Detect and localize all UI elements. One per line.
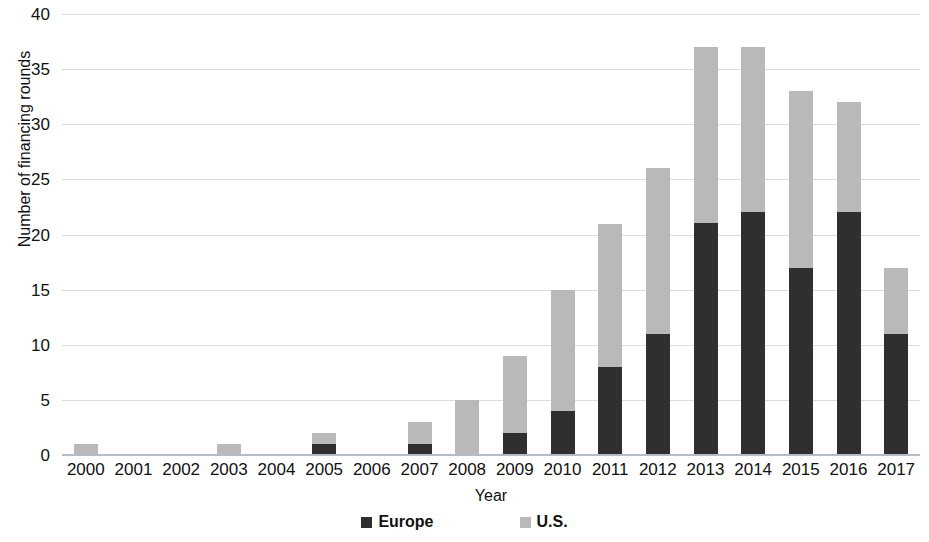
x-axis-tick-label: 2002 xyxy=(157,460,205,480)
bar-group[interactable] xyxy=(884,268,908,455)
x-axis-title: Year xyxy=(62,487,920,505)
x-axis-tick-label: 2009 xyxy=(491,460,539,480)
x-axis-tick-label: 2004 xyxy=(253,460,301,480)
bar-group[interactable] xyxy=(455,400,479,455)
bar-segment-europe[interactable] xyxy=(837,212,861,455)
plot-area xyxy=(62,14,920,455)
y-axis-tick-label: 5 xyxy=(0,392,50,409)
legend-swatch-icon xyxy=(361,517,372,528)
x-axis-line xyxy=(62,454,920,455)
bar-segment-us[interactable] xyxy=(598,224,622,367)
bar-group[interactable] xyxy=(741,47,765,455)
bar-group[interactable] xyxy=(551,290,575,455)
bar-group[interactable] xyxy=(503,356,527,455)
bar-segment-us[interactable] xyxy=(408,422,432,444)
y-axis-tick-label: 10 xyxy=(0,337,50,354)
legend-label: Europe xyxy=(378,514,433,530)
x-axis-tick-label: 2007 xyxy=(396,460,444,480)
y-axis-tick-label: 25 xyxy=(0,171,50,188)
bar-group[interactable] xyxy=(646,168,670,455)
x-axis-tick-label: 2005 xyxy=(300,460,348,480)
bar-group[interactable] xyxy=(408,422,432,455)
x-axis-tick-label: 2010 xyxy=(539,460,587,480)
bar-segment-us[interactable] xyxy=(455,400,479,455)
bar-group[interactable] xyxy=(694,47,718,455)
bar-segment-europe[interactable] xyxy=(503,433,527,455)
bar-segment-europe[interactable] xyxy=(598,367,622,455)
y-axis-tick-label: 30 xyxy=(0,116,50,133)
bar-group[interactable] xyxy=(312,433,336,455)
x-axis-tick-label: 2016 xyxy=(825,460,873,480)
stacked-bar-chart: Number of financing rounds 4035302520151… xyxy=(0,0,929,542)
bar-segment-us[interactable] xyxy=(837,102,861,212)
x-axis-tick-label: 2000 xyxy=(62,460,110,480)
y-axis-tick-label: 0 xyxy=(0,447,50,464)
y-axis-tick-label: 20 xyxy=(0,227,50,244)
bar-segment-europe[interactable] xyxy=(551,411,575,455)
bar-segment-europe[interactable] xyxy=(884,334,908,455)
legend-item[interactable]: Europe xyxy=(361,514,433,530)
bar-segment-us[interactable] xyxy=(789,91,813,267)
bar-series-container xyxy=(62,14,920,455)
bar-segment-europe[interactable] xyxy=(741,212,765,455)
bar-group[interactable] xyxy=(837,102,861,455)
y-axis-tick-label: 15 xyxy=(0,282,50,299)
legend-label: U.S. xyxy=(537,514,568,530)
bar-segment-europe[interactable] xyxy=(694,223,718,455)
x-axis-tick-labels: 2000200120022003200420052006200720082009… xyxy=(62,460,920,486)
x-axis-tick-label: 2011 xyxy=(586,460,634,480)
legend-item[interactable]: U.S. xyxy=(520,514,568,530)
x-axis-tick-label: 2013 xyxy=(682,460,730,480)
y-axis-tick-label: 35 xyxy=(0,61,50,78)
x-axis-tick-label: 2001 xyxy=(110,460,158,480)
x-axis-tick-label: 2012 xyxy=(634,460,682,480)
bar-segment-us[interactable] xyxy=(694,47,718,223)
bar-segment-us[interactable] xyxy=(503,356,527,433)
x-axis-tick-label: 2008 xyxy=(443,460,491,480)
y-axis-tick-label: 40 xyxy=(0,6,50,23)
x-axis-tick-label: 2014 xyxy=(729,460,777,480)
y-axis-tick-labels: 4035302520151050 xyxy=(0,0,56,470)
bar-segment-us[interactable] xyxy=(741,47,765,212)
x-axis-tick-label: 2015 xyxy=(777,460,825,480)
bar-group[interactable] xyxy=(789,91,813,455)
bar-segment-us[interactable] xyxy=(884,268,908,334)
legend-swatch-icon xyxy=(520,517,531,528)
bar-segment-europe[interactable] xyxy=(789,268,813,455)
x-axis-tick-label: 2017 xyxy=(872,460,920,480)
gridline xyxy=(62,455,920,456)
x-axis-tick-label: 2006 xyxy=(348,460,396,480)
bar-segment-us[interactable] xyxy=(551,290,575,411)
bar-segment-us[interactable] xyxy=(646,168,670,333)
bar-segment-us[interactable] xyxy=(312,433,336,444)
bar-group[interactable] xyxy=(598,223,622,455)
chart-legend: EuropeU.S. xyxy=(0,514,929,530)
x-axis-tick-label: 2003 xyxy=(205,460,253,480)
bar-segment-europe[interactable] xyxy=(646,334,670,455)
